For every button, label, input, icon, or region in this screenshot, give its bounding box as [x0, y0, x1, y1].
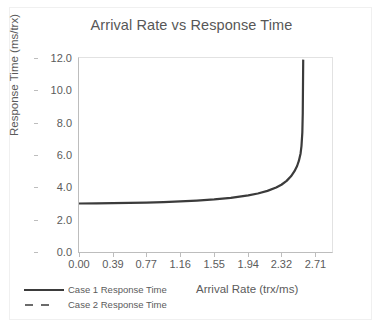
y-axis-tick-labels: 0.02.04.06.08.010.012.0: [38, 57, 72, 253]
x-tick-mark: [248, 253, 249, 257]
plot-svg: [79, 58, 332, 252]
y-tick-mark: [34, 252, 38, 253]
y-tick-mark: [34, 90, 38, 91]
x-tick-mark: [146, 253, 147, 257]
y-tick-label: 2.0: [38, 214, 72, 226]
y-tick-label: 12.0: [38, 52, 72, 64]
x-tick-label: 2.71: [292, 258, 338, 270]
y-tick-label: 8.0: [38, 117, 72, 129]
legend-swatch-solid-icon: [22, 285, 64, 295]
y-tick-mark: [34, 187, 38, 188]
y-tick-mark: [34, 220, 38, 221]
y-axis-title: Response Time (ms/trx): [8, 0, 20, 173]
y-tick-label: 10.0: [38, 84, 72, 96]
x-tick-mark: [281, 253, 282, 257]
x-axis-title: Arrival Rate (trx/ms): [196, 283, 298, 295]
chart-legend: Case 1 Response Time Case 2 Response Tim…: [22, 282, 192, 312]
legend-label-case-2: Case 2 Response Time: [68, 299, 167, 310]
y-tick-label: 4.0: [38, 181, 72, 193]
chart-figure: Arrival Rate vs Response Time Response T…: [0, 0, 383, 329]
y-tick-mark: [34, 155, 38, 156]
x-axis-tick-labels: 0.000.390.771.161.551.942.322.71: [78, 258, 333, 274]
plot-area: [78, 57, 333, 253]
legend-swatch-dashed-icon: [22, 300, 64, 310]
series-group: [79, 60, 303, 204]
y-tick-label: 0.0: [38, 246, 72, 258]
x-tick-mark: [113, 253, 114, 257]
x-tick-mark: [180, 253, 181, 257]
y-tick-label: 6.0: [38, 149, 72, 161]
legend-item-case-1[interactable]: Case 1 Response Time: [22, 282, 192, 297]
x-tick-mark: [315, 253, 316, 257]
x-tick-mark: [79, 253, 80, 257]
series-line-case-1: [79, 60, 303, 204]
chart-title: Arrival Rate vs Response Time: [0, 17, 383, 33]
legend-item-case-2[interactable]: Case 2 Response Time: [22, 297, 192, 312]
x-tick-mark: [214, 253, 215, 257]
legend-label-case-1: Case 1 Response Time: [68, 284, 167, 295]
y-tick-mark: [34, 123, 38, 124]
y-tick-mark: [34, 58, 38, 59]
